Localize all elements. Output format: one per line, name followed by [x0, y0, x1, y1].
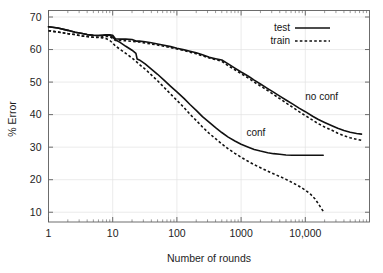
annotation-label: no conf: [305, 91, 338, 102]
y-tick-label: 10: [30, 206, 42, 218]
x-tick-label: 10: [107, 227, 119, 239]
y-tick-label: 60: [30, 43, 42, 55]
x-tick-label: 1000: [229, 227, 253, 239]
legend-label-test: test: [274, 22, 290, 33]
y-tick-label: 40: [30, 108, 42, 120]
x-tick-label: 100: [168, 227, 186, 239]
x-axis-title: Number of rounds: [167, 252, 251, 264]
y-tick-label: 30: [30, 141, 42, 153]
x-tick-label: 1: [46, 227, 52, 239]
annotation-label: conf: [246, 127, 265, 138]
chart-figure: 70605040302010110100100010,000 no confco…: [0, 0, 383, 273]
y-tick-label: 70: [30, 11, 42, 23]
error-vs-rounds-chart: 70605040302010110100100010,000 no confco…: [0, 0, 383, 273]
x-tick-label: 10,000: [289, 227, 321, 239]
y-tick-label: 20: [30, 173, 42, 185]
y-axis-title: % Error: [6, 101, 18, 137]
legend-label-train: train: [271, 35, 290, 46]
y-tick-label: 50: [30, 76, 42, 88]
